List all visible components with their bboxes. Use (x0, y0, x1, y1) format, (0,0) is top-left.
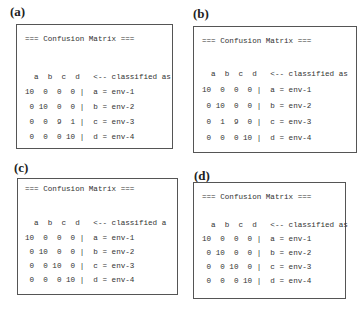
matrix-row: 10 0 0 0 | a = env-1 (25, 234, 134, 242)
panel-a-confusion-matrix: === Confusion Matrix === a b c d <-- cla… (16, 24, 173, 149)
panel-a-label: (a) (10, 4, 25, 20)
matrix-row: 0 0 10 0 | c = env-3 (25, 262, 134, 270)
matrix-row: 0 0 0 10 | d = env-4 (25, 133, 134, 141)
panel-c-confusion-matrix: === Confusion Matrix === a b c d <-- cla… (17, 178, 178, 295)
matrix-title: === Confusion Matrix === (25, 35, 134, 43)
matrix-title: === Confusion Matrix === (202, 37, 311, 45)
matrix-header: a b c d <-- classified as (202, 221, 348, 229)
matrix-row: 0 0 10 0 | c = env-3 (202, 263, 311, 271)
panel-b-confusion-matrix: === Confusion Matrix === a b c d <-- cla… (193, 26, 357, 153)
matrix-row: 0 10 0 0 | b = env-2 (25, 248, 134, 256)
matrix-row: 0 10 0 0 | b = env-2 (202, 102, 311, 110)
matrix-title: === Confusion Matrix === (25, 185, 134, 193)
panel-b-label: (b) (193, 6, 209, 22)
matrix-header: a b c d <-- classified as (202, 70, 348, 78)
matrix-row: 0 10 0 0 | b = env-2 (25, 103, 134, 111)
matrix-title: === Confusion Matrix === (202, 193, 311, 201)
matrix-row: 0 10 0 0 | b = env-2 (202, 249, 311, 257)
matrix-row: 0 0 0 10 | d = env-4 (202, 134, 311, 142)
matrix-row: 10 0 0 0 | a = env-1 (25, 88, 134, 96)
matrix-row: 10 0 0 0 | a = env-1 (202, 86, 311, 94)
panel-c-label: (c) (14, 160, 28, 176)
matrix-row: 0 0 0 10 | d = env-4 (25, 276, 134, 284)
matrix-row: 10 0 0 0 | a = env-1 (202, 235, 311, 243)
matrix-row: 0 0 9 1 | c = env-3 (25, 118, 134, 126)
matrix-header: a b c d <-- classified as (25, 73, 171, 81)
matrix-header: a b c d <-- classified a (25, 219, 166, 227)
matrix-row: 0 1 9 0 | c = env-3 (202, 118, 311, 126)
matrix-row: 0 0 0 10 | d = env-4 (202, 277, 311, 285)
panel-d-confusion-matrix: === Confusion Matrix === a b c d <-- cla… (193, 182, 346, 299)
